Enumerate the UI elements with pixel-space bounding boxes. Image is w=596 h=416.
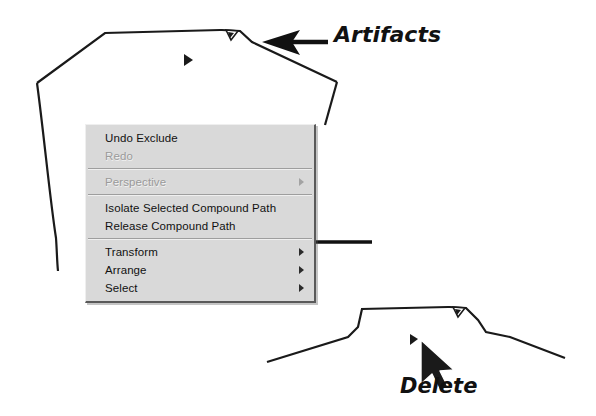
menu-separator-3	[88, 238, 312, 240]
menu-item-label: Perspective	[105, 176, 166, 188]
annotation-label-delete: Delete	[400, 374, 477, 398]
artifact-marks-top	[184, 30, 238, 66]
menu-separator-2	[88, 194, 312, 196]
menu-item-label: Release Compound Path	[105, 220, 236, 232]
menu-item-arrange[interactable]: Arrange	[86, 261, 314, 279]
menu-item-release-compound-path[interactable]: Release Compound Path	[86, 217, 314, 235]
artifact-marks-bottom	[410, 307, 465, 345]
menu-item-select[interactable]: Select	[86, 279, 314, 297]
chevron-right-icon	[299, 178, 304, 186]
chevron-right-icon	[299, 266, 304, 274]
bottom-garment-outline	[267, 307, 565, 362]
menu-item-label: Redo	[105, 150, 133, 162]
menu-separator-1	[88, 168, 312, 170]
menu-item-redo: Redo	[86, 147, 314, 165]
screenshot-canvas: Undo Exclude Redo Perspective Isolate Se…	[0, 0, 596, 416]
menu-item-label: Select	[105, 282, 138, 294]
menu-item-transform[interactable]: Transform	[86, 243, 314, 261]
menu-item-isolate-selected-compound-path[interactable]: Isolate Selected Compound Path	[86, 199, 314, 217]
chevron-right-icon	[299, 248, 304, 256]
menu-item-label: Arrange	[105, 264, 147, 276]
menu-item-label: Transform	[105, 246, 158, 258]
context-menu[interactable]: Undo Exclude Redo Perspective Isolate Se…	[85, 124, 316, 303]
menu-item-perspective: Perspective	[86, 173, 314, 191]
menu-item-undo-exclude[interactable]: Undo Exclude	[86, 129, 314, 147]
annotation-label-artifacts: Artifacts	[334, 22, 441, 47]
menu-item-label: Isolate Selected Compound Path	[105, 202, 276, 214]
menu-item-label: Undo Exclude	[105, 132, 178, 144]
chevron-right-icon	[299, 284, 304, 292]
